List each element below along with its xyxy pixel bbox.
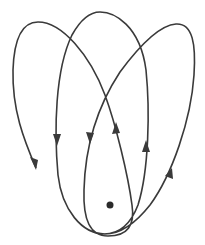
arrow-icon bbox=[53, 134, 61, 146]
orbit-diagram bbox=[0, 0, 205, 245]
arrow-icon bbox=[142, 140, 150, 152]
orbit-path bbox=[13, 12, 195, 236]
arrow-icon bbox=[86, 132, 94, 144]
focus-dot bbox=[107, 202, 114, 209]
arrow-icon bbox=[30, 157, 38, 170]
arrow-icon bbox=[112, 122, 120, 134]
